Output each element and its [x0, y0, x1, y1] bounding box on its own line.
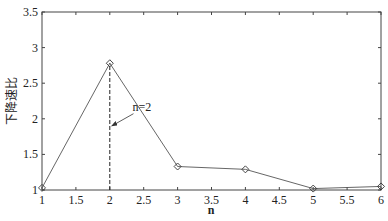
chart: 11.522.533.544.555.5611.522.533.5 n=2 n … — [0, 0, 388, 221]
x-tick-label: 4.5 — [272, 193, 287, 207]
x-tick-label: 5 — [310, 193, 316, 207]
y-tick-label: 3 — [32, 41, 38, 55]
x-tick-label: 1 — [39, 193, 45, 207]
x-tick-label: 5.5 — [340, 193, 355, 207]
y-tick-label: 2.5 — [23, 76, 38, 90]
x-tick-label: 2 — [107, 193, 113, 207]
x-tick-label: 6 — [378, 193, 384, 207]
y-tick-label: 3.5 — [23, 5, 38, 19]
y-axis-label: 下降速比 — [5, 77, 19, 125]
x-axis-label: n — [208, 203, 215, 217]
annotation-arrow — [112, 114, 134, 126]
x-tick-label: 3 — [175, 193, 181, 207]
x-tick-label: 2.5 — [136, 193, 151, 207]
plot-axes — [42, 12, 381, 190]
plot-frame — [42, 12, 381, 190]
y-tick-label: 1.5 — [23, 147, 38, 161]
y-tick-label: 1 — [32, 183, 38, 197]
x-tick-label: 4 — [242, 193, 248, 207]
x-tick-label: 1.5 — [68, 193, 83, 207]
series-line — [42, 63, 381, 188]
data-series — [39, 60, 385, 192]
annotations: n=2 — [110, 63, 151, 190]
axis-ticks: 11.522.533.544.555.5611.522.533.5 — [23, 5, 384, 207]
y-tick-label: 2 — [32, 112, 38, 126]
